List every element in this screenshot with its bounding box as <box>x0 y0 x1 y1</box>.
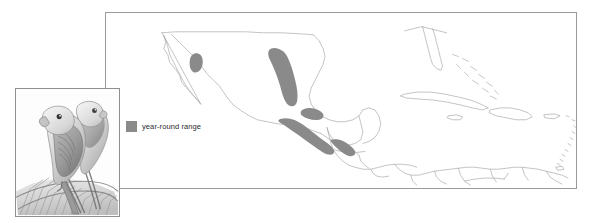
range-patch-central-america <box>331 139 356 156</box>
legend-label: year-round range <box>142 123 201 131</box>
range-patch-sierra-madre-oriental <box>268 48 297 106</box>
range-patch-tehuantepec <box>301 108 324 120</box>
bird-illustration-panel <box>15 88 120 217</box>
eye-foreground-bird <box>57 114 62 119</box>
eye-background-bird <box>92 108 97 113</box>
range-map-panel <box>105 12 577 189</box>
map-coastlines <box>162 27 576 185</box>
year-round-range-swatch-icon <box>126 121 137 132</box>
range-patch-northwest-mexico <box>190 53 203 72</box>
map-legend: year-round range <box>126 121 201 132</box>
range-map-graphic <box>106 13 576 188</box>
parrot-pair-illustration <box>16 89 119 216</box>
lesser-antilles-dots <box>557 116 576 165</box>
